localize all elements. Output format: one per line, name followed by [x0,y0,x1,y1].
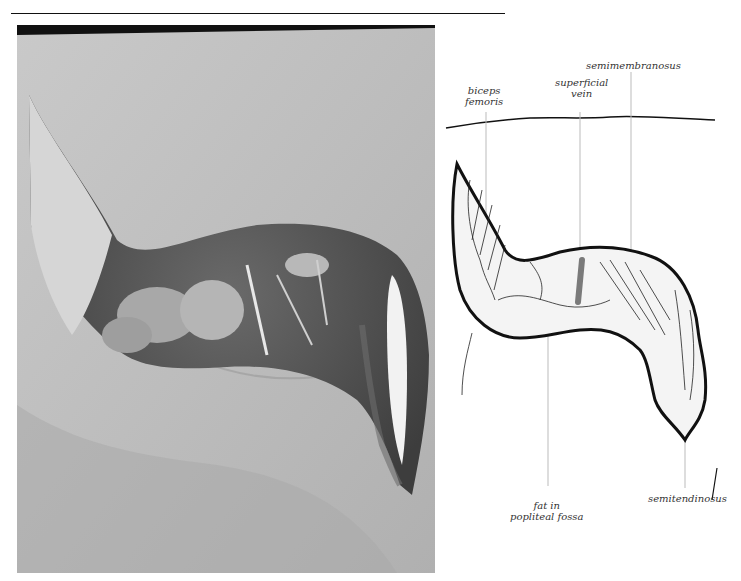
label-semitendinosus: semitendinosus [648,493,727,504]
header-rule [11,13,505,14]
label-semimembranosus: semimembranosus [586,60,681,71]
label-superficial-vein: superficial vein [555,77,608,99]
anatomical-line-drawing [440,40,741,560]
dissection-photo [17,25,435,573]
label-biceps-femoris: biceps femoris [465,85,503,107]
label-fat-in-popliteal-fossa: fat in popliteal fossa [510,500,583,522]
superficial-vein [578,260,582,302]
